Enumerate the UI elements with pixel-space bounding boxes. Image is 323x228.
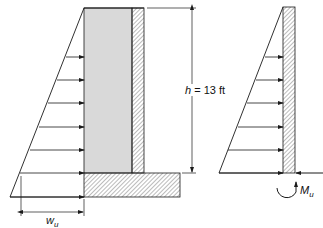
moment-label: Mu bbox=[300, 184, 314, 199]
left-wall-figure bbox=[10, 8, 196, 216]
moment-arrow bbox=[277, 182, 296, 198]
stem-pressure-arrows bbox=[219, 57, 283, 173]
height-label: h = 13 ft bbox=[184, 84, 226, 96]
load-sub: u bbox=[54, 220, 58, 228]
stem-free-body bbox=[283, 7, 295, 173]
moment-sub: u bbox=[309, 190, 313, 199]
pressure-triangle bbox=[10, 8, 84, 197]
right-stem-figure bbox=[219, 7, 323, 198]
moment-var: M bbox=[300, 184, 309, 196]
backfill-region bbox=[84, 8, 132, 173]
retaining-wall-diagram bbox=[0, 0, 323, 228]
load-label: wu bbox=[46, 214, 58, 228]
stem-pressure-triangle bbox=[219, 7, 283, 173]
height-value: = 13 ft bbox=[191, 84, 225, 96]
load-var: w bbox=[46, 214, 54, 226]
wall-footing bbox=[84, 173, 180, 197]
wall-stem bbox=[132, 8, 144, 173]
